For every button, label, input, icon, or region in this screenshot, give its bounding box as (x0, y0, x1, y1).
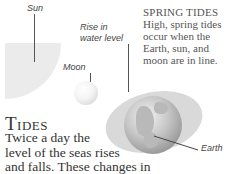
sun-shape (5, 43, 61, 99)
sun-label: Sun (27, 3, 43, 14)
rise-label-line-2: water level (80, 33, 123, 44)
caption-line: Earth, sun, and (143, 42, 238, 54)
earth-leader-line (150, 132, 205, 154)
spring-tides-caption: SPRING TIDES High, spring tides occur wh… (143, 6, 238, 66)
moon-shape (74, 81, 98, 105)
caption-line: moon are in line. (143, 54, 238, 66)
rise-label: Rise in water level (80, 22, 123, 44)
caption-line: occur when the (143, 30, 238, 42)
caption-heading: SPRING TIDES (143, 6, 238, 18)
article-line: Twice a day the (5, 131, 151, 146)
sun-leader-line (34, 14, 35, 62)
earth-label: Earth (201, 143, 223, 154)
article-body: Twice a day the level of the seas rises … (5, 131, 151, 174)
caption-line: High, spring tides (143, 18, 238, 30)
rise-label-line-1: Rise in (80, 22, 123, 33)
rise-leader-line (128, 44, 129, 92)
article-line: and falls. These changes in (5, 160, 151, 174)
moon-label: Moon (63, 62, 86, 73)
landmass (154, 102, 168, 114)
article-line: level of the seas rises (5, 146, 151, 161)
